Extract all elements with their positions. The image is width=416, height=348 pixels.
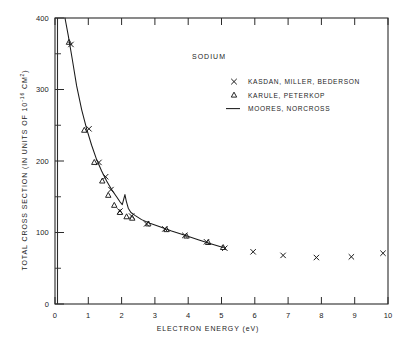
x-tick-label: 6 [253,311,257,320]
y-tick-label: 400 [36,14,49,23]
y-tick-label: 100 [36,228,49,237]
axes-frame [55,18,388,304]
data-point-triangle [106,192,111,197]
legend-label: KARULE, PETERKOP [248,92,325,99]
legend-label: MOORES, NORCROSS [248,105,330,112]
x-tick-label: 2 [119,311,123,320]
y-axis-tick-labels: 0100200300400 [36,14,49,309]
data-point-triangle [124,214,129,219]
x-tick-label: 9 [353,311,357,320]
legend-label: KASDAN, MILLER, BEDERSON [248,78,360,85]
y-axis-title: TOTAL CROSS SECTION (IN UNITS OF 10-16 C… [19,69,29,270]
data-point-cross [280,253,285,258]
data-point-cross [250,249,255,254]
data-point-cross [349,254,354,259]
data-point-cross [314,255,319,260]
x-tick-label: 1 [86,311,90,320]
chart-figure: 012345678910 0100200300400 SODIUM KASDAN… [0,0,416,348]
legend: KASDAN, MILLER, BEDERSONKARULE, PETERKOP… [226,78,360,112]
data-point-triangle [117,210,122,215]
legend-item: MOORES, NORCROSS [226,105,330,112]
cross-section-chart: 012345678910 0100200300400 SODIUM KASDAN… [0,0,416,348]
x-tick-label: 5 [219,311,223,320]
data-point-cross [182,233,187,238]
y-tick-label: 200 [36,157,49,166]
x-tick-label: 8 [319,311,323,320]
series-kasdan-miller-bederson-points [68,42,385,260]
x-axis-title: ELECTRON ENERGY (eV) [157,325,260,333]
series-karule-peterkop-points [66,39,226,249]
x-tick-label: 3 [153,311,157,320]
y-tick-label: 0 [45,300,49,309]
x-axis-ticks [55,18,388,304]
data-point-cross [129,213,134,218]
data-point-cross [222,246,227,251]
data-point-triangle [112,202,117,207]
x-axis-tick-labels: 012345678910 [53,311,393,320]
y-axis-ticks [55,18,64,304]
x-tick-label: 10 [384,311,393,320]
legend-item: KARULE, PETERKOP [231,92,325,99]
x-tick-label: 0 [53,311,57,320]
x-tick-label: 4 [186,311,190,320]
y-tick-label: 300 [36,85,49,94]
legend-item: KASDAN, MILLER, BEDERSON [231,78,360,85]
data-point-cross [380,251,385,256]
x-tick-label: 7 [286,311,290,320]
plot-title: SODIUM [192,53,226,60]
